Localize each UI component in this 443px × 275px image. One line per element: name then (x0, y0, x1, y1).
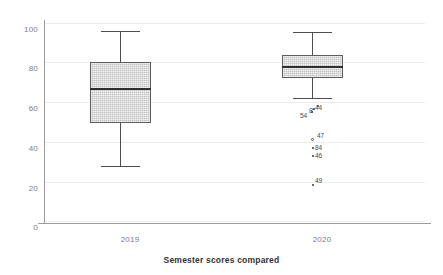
outlier-case-label-8: 8 (309, 106, 313, 115)
plot-area: 54 8 44 47 84 46 49 (44, 20, 425, 223)
median-line-2020 (282, 66, 343, 68)
whisker-lower-line-2019 (120, 123, 121, 166)
x-axis-line (38, 223, 431, 224)
y-tick-80: 80 (0, 57, 38, 75)
outlier-case-label-54: 54 (300, 112, 307, 119)
y-tick-60: 60 (0, 97, 38, 115)
whisker-upper-line-2019 (120, 31, 121, 62)
box-plot-chart: 54 8 44 47 84 46 49 100 80 60 40 20 0 (0, 0, 443, 275)
y-tick-20: 20 (0, 177, 38, 195)
y-tick-40: 40 (0, 137, 38, 155)
outlier-marker-46 (312, 155, 314, 157)
y-tick-label-60: 60 (29, 104, 38, 113)
whisker-lower-line-2020 (312, 78, 313, 99)
x-tick-label-2020: 2020 (292, 235, 352, 244)
y-tick-label-40: 40 (29, 144, 38, 153)
whisker-upper-cap-2020 (293, 32, 332, 33)
gridline-20 (44, 182, 425, 183)
y-tick-label-100: 100 (24, 25, 38, 34)
whisker-upper-cap-2019 (101, 31, 140, 32)
outlier-case-label-47: 47 (317, 132, 324, 139)
whisker-lower-cap-2019 (101, 166, 140, 167)
outlier-marker-84 (312, 147, 314, 149)
outlier-marker-47 (311, 138, 314, 141)
x-axis-title: Semester scores compared (0, 255, 443, 265)
whisker-upper-line-2020 (312, 32, 313, 55)
y-axis-line (44, 20, 45, 223)
outlier-case-label-49: 49 (315, 177, 322, 184)
y-tick-label-20: 20 (29, 184, 38, 193)
outlier-case-label-44: 44 (315, 104, 322, 111)
outlier-case-label-46: 46 (315, 152, 322, 159)
box-2019 (90, 62, 151, 123)
gridline-40 (44, 142, 425, 143)
x-tick-label-2019: 2019 (100, 235, 160, 244)
outlier-case-label-84: 84 (315, 144, 322, 151)
y-tick-0: 0 (0, 216, 38, 234)
y-tick-100: 100 (0, 18, 38, 36)
median-line-2019 (90, 88, 151, 90)
gridline-100 (44, 23, 425, 24)
outlier-marker-49 (312, 184, 314, 186)
gridline-0 (44, 221, 425, 222)
y-tick-label-0: 0 (33, 223, 38, 232)
y-tick-label-80: 80 (29, 64, 38, 73)
whisker-lower-cap-2020 (293, 98, 332, 99)
